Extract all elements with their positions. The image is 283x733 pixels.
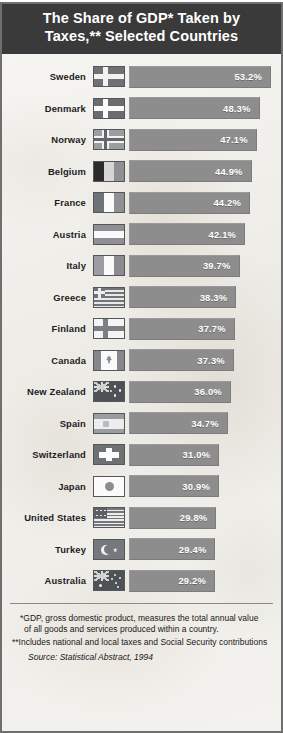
sweden-flag <box>93 66 125 87</box>
poster-title-bar: The Share of GDP* Taken by Taxes,** Sele… <box>2 2 281 54</box>
chart-row: New Zealand36.0% <box>0 376 283 408</box>
spain-flag <box>93 413 125 434</box>
chart-row: Norway47.1% <box>0 124 283 156</box>
value-bar: 39.7% <box>129 255 240 277</box>
chart-row: Greece38.3% <box>0 282 283 314</box>
value-bar: 30.9% <box>129 475 219 497</box>
page-title: The Share of GDP* Taken by Taxes,** Sele… <box>35 10 248 45</box>
value-bar: 36.0% <box>129 381 231 403</box>
italy-flag <box>93 255 125 276</box>
country-label: New Zealand <box>4 386 93 397</box>
value-bar: 38.3% <box>129 286 236 308</box>
bar-track: 29.2% <box>125 570 283 592</box>
value-label: 53.2% <box>234 71 270 82</box>
footnote-gdp: *GDP, gross domestic product, measures t… <box>10 613 273 636</box>
value-label: 29.4% <box>179 544 215 555</box>
source-line: Source: Statistical Abstract, 1994 <box>10 652 273 664</box>
australia-flag <box>93 570 125 591</box>
footnotes: *GDP, gross domestic product, measures t… <box>0 604 283 664</box>
value-label: 48.3% <box>223 103 259 114</box>
austria-flag <box>93 224 125 245</box>
country-label: Turkey <box>4 544 93 555</box>
value-label: 37.7% <box>198 323 234 334</box>
bar-chart: Sweden53.2%Denmark48.3%Norway47.1%Belgiu… <box>0 54 283 597</box>
footnote-gdp-line2: of all goods and services produced withi… <box>20 624 273 636</box>
france-flag <box>93 192 125 213</box>
chart-row: Sweden53.2% <box>0 61 283 93</box>
bar-track: 47.1% <box>125 129 283 151</box>
value-bar: 48.3% <box>129 97 260 119</box>
footnote-taxes: **Includes national and local taxes and … <box>10 637 273 649</box>
value-label: 44.2% <box>213 197 249 208</box>
bar-track: 39.7% <box>125 255 283 277</box>
bar-track: 29.4% <box>125 538 283 560</box>
value-bar: 29.2% <box>129 570 215 592</box>
country-label: Finland <box>4 323 93 334</box>
switzerland-flag <box>93 444 125 465</box>
bar-track: 30.9% <box>125 475 283 497</box>
bar-track: 37.7% <box>125 318 283 340</box>
value-label: 37.3% <box>197 355 233 366</box>
chart-row: Australia29.2% <box>0 565 283 597</box>
chart-row: Finland37.7% <box>0 313 283 345</box>
value-label: 30.9% <box>182 481 218 492</box>
country-label: Spain <box>4 418 93 429</box>
footnote-gdp-line1: *GDP, gross domestic product, measures t… <box>20 613 258 623</box>
value-label: 44.9% <box>215 166 251 177</box>
country-label: France <box>4 197 93 208</box>
bar-track: 44.2% <box>125 192 283 214</box>
new-zealand-flag <box>93 381 125 402</box>
bar-track: 42.1% <box>125 223 283 245</box>
bar-track: 38.3% <box>125 286 283 308</box>
chart-row: France44.2% <box>0 187 283 219</box>
title-line-1: The Share of GDP* Taken by <box>43 10 240 26</box>
chart-row: Canada37.3% <box>0 345 283 377</box>
bar-track: 31.0% <box>125 444 283 466</box>
value-label: 36.0% <box>194 386 230 397</box>
chart-row: Belgium44.9% <box>0 156 283 188</box>
value-bar: 34.7% <box>129 412 228 434</box>
value-bar: 29.4% <box>129 538 215 560</box>
bar-track: 48.3% <box>125 97 283 119</box>
chart-row: Japan30.9% <box>0 471 283 503</box>
chart-row: Denmark48.3% <box>0 93 283 125</box>
country-label: Italy <box>4 260 93 271</box>
chart-row: Austria42.1% <box>0 219 283 251</box>
value-label: 29.2% <box>178 575 214 586</box>
value-bar: 37.7% <box>129 318 235 340</box>
united-states-flag <box>93 507 125 528</box>
japan-flag <box>93 476 125 497</box>
bar-track: 36.0% <box>125 381 283 403</box>
value-bar: 29.8% <box>129 507 216 529</box>
country-label: Norway <box>4 134 93 145</box>
bar-track: 44.9% <box>125 160 283 182</box>
value-label: 42.1% <box>209 229 245 240</box>
country-label: Sweden <box>4 71 93 82</box>
value-label: 39.7% <box>203 260 239 271</box>
country-label: Austria <box>4 229 93 240</box>
country-label: Denmark <box>4 103 93 114</box>
country-label: Japan <box>4 481 93 492</box>
infographic-poster: The Share of GDP* Taken by Taxes,** Sele… <box>0 2 283 733</box>
bar-track: 53.2% <box>125 66 283 88</box>
value-bar: 44.2% <box>129 192 250 214</box>
country-label: Greece <box>4 292 93 303</box>
country-label: Australia <box>4 575 93 586</box>
country-label: Belgium <box>4 166 93 177</box>
chart-row: United States29.8% <box>0 502 283 534</box>
chart-row: Spain34.7% <box>0 408 283 440</box>
turkey-flag <box>93 539 125 560</box>
value-bar: 47.1% <box>129 129 257 151</box>
value-bar: 44.9% <box>129 160 252 182</box>
greece-flag <box>93 287 125 308</box>
value-label: 29.8% <box>180 512 216 523</box>
chart-row: Switzerland31.0% <box>0 439 283 471</box>
value-bar: 37.3% <box>129 349 234 371</box>
denmark-flag <box>93 98 125 119</box>
canada-flag <box>93 350 125 371</box>
country-label: United States <box>4 512 93 523</box>
source-title: Statistical Abstract <box>60 652 130 662</box>
value-bar: 53.2% <box>129 66 271 88</box>
bar-track: 29.8% <box>125 507 283 529</box>
norway-flag <box>93 129 125 150</box>
